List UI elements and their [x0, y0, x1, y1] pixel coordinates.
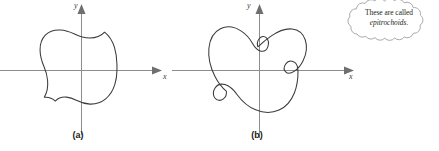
epitrochoid-curve-b [209, 27, 307, 112]
axes-panel-a [0, 4, 162, 135]
x-axis-label-b: x [349, 72, 353, 81]
panel-b [172, 0, 362, 151]
y-axis-label-b: y [247, 1, 251, 10]
caption-panel-b: (b) [237, 130, 277, 140]
x-axis-label-a: x [163, 72, 167, 81]
y-axis-arrowhead [78, 4, 86, 14]
caption-panel-a: (a) [58, 130, 98, 140]
panel-a [0, 0, 185, 151]
x-axis-arrowhead [152, 67, 162, 75]
axes-panel-b [172, 4, 354, 138]
callout-text: These are called epitrochoids. [349, 8, 429, 28]
y-axis-label-a: y [74, 1, 78, 10]
y-axis-arrowhead [256, 4, 264, 14]
epitrochoid-curve-a [40, 30, 117, 104]
callout-line-1: These are called [365, 8, 413, 17]
callout-line-2: epitrochoids. [349, 18, 429, 28]
epitrochoid-figure: x y (a) x y (b) These are called epitroc… [0, 0, 439, 151]
